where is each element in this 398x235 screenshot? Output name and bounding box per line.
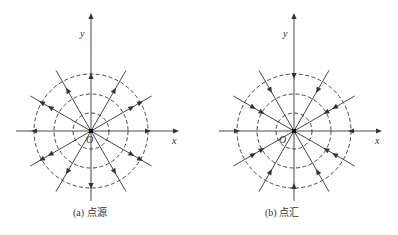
panel-point-sink: y x O (b) 点汇 (199, 0, 398, 235)
x-axis-label: x (375, 135, 379, 146)
arrowhead-icon (332, 153, 338, 158)
arrowhead-icon (88, 13, 93, 19)
arrowhead-icon (267, 86, 272, 92)
origin-point (292, 129, 296, 133)
streamline (259, 70, 294, 131)
arrowhead-icon (111, 88, 116, 94)
streamline (56, 70, 91, 131)
arrowhead-icon (66, 168, 71, 174)
arrowhead-icon (136, 101, 142, 106)
caption-point-source: (a) 点源 (73, 204, 107, 219)
arrowhead-icon (376, 128, 382, 133)
streamline (294, 131, 329, 192)
point-sink-diagram (199, 0, 398, 235)
arrowhead-icon (316, 169, 321, 175)
arrowhead-icon (291, 73, 296, 79)
origin-label: O (86, 134, 93, 145)
y-axis-label: y (283, 28, 287, 39)
streamline (91, 131, 126, 192)
arrowhead-icon (249, 153, 255, 158)
arrowhead-icon (291, 13, 296, 19)
x-axis-label: x (172, 135, 176, 146)
origin-label: O (279, 134, 286, 145)
arrowhead-icon (48, 106, 54, 111)
streamline (91, 70, 126, 131)
arrowhead-icon (128, 151, 134, 156)
arrowhead-icon (66, 88, 71, 94)
caption-point-sink: (b) 点汇 (265, 204, 299, 219)
y-axis-label: y (80, 28, 84, 39)
streamline (294, 70, 329, 131)
arrowhead-icon (316, 86, 321, 92)
arrowhead-icon (48, 151, 54, 156)
arrowhead-icon (267, 169, 272, 175)
arrowhead-icon (111, 168, 116, 174)
arrowhead-icon (173, 128, 179, 133)
point-source-diagram (0, 0, 199, 235)
streamline (259, 131, 294, 192)
arrowhead-icon (128, 106, 134, 111)
panel-point-source: y x O (a) 点源 (0, 0, 199, 235)
arrowhead-icon (249, 104, 255, 109)
arrowhead-icon (291, 183, 296, 189)
origin-point (89, 129, 93, 133)
arrowhead-icon (332, 104, 338, 109)
